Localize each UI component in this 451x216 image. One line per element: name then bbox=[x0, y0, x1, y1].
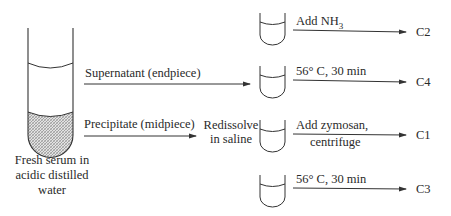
treatment-line: centrifuge bbox=[310, 135, 368, 149]
treatment-text: Add NH bbox=[296, 14, 339, 28]
output-c4: C4 bbox=[416, 75, 431, 90]
precipitate-label: Precipitate (midpiece) bbox=[84, 117, 195, 131]
step-treatment-c1: Add zymosan, centrifuge bbox=[296, 118, 368, 149]
output-c3: C3 bbox=[416, 182, 431, 197]
treatment-line: Add zymosan, bbox=[296, 118, 368, 132]
supernatant-label: Supernatant (endpiece) bbox=[85, 66, 201, 80]
caption-line: water bbox=[2, 183, 102, 198]
step-arrow-c3 bbox=[293, 188, 406, 189]
step-treatment-c4: 56° C, 30 min bbox=[296, 64, 366, 78]
redissolve-line: in saline bbox=[201, 132, 261, 146]
step-treatment-c2: Add NH3 bbox=[296, 14, 343, 33]
small-tube-3 bbox=[260, 120, 285, 152]
step-treatment-c3: 56° C, 30 min bbox=[296, 172, 366, 186]
caption-line: acidic distilled bbox=[2, 168, 102, 183]
output-c1: C1 bbox=[416, 128, 431, 143]
small-tube-1 bbox=[260, 13, 285, 45]
main-test-tube bbox=[28, 28, 73, 158]
caption-line: Fresh serum in bbox=[2, 153, 102, 168]
output-c2: C2 bbox=[416, 25, 431, 40]
redissolve-label: Redissolve in saline bbox=[201, 118, 261, 146]
step-arrow-c4 bbox=[293, 80, 406, 82]
treatment-subscript: 3 bbox=[339, 21, 344, 31]
small-tube-4 bbox=[260, 175, 285, 207]
supernatant-meniscus bbox=[28, 63, 73, 68]
redissolve-line: Redissolve bbox=[201, 118, 261, 132]
small-tube-2 bbox=[260, 66, 285, 98]
source-caption: Fresh serum in acidic distilled water bbox=[2, 153, 102, 198]
